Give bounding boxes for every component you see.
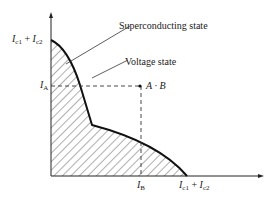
superconducting-leader	[66, 26, 130, 64]
voltage-state-label: Voltage state	[125, 57, 176, 67]
superconducting-state-label: Superconducting state	[119, 21, 208, 31]
ib-label: IB	[137, 180, 145, 192]
x-max-label: Ic1 + Ic2	[179, 180, 210, 192]
point-ab	[138, 84, 141, 87]
voltage-leader	[92, 60, 128, 78]
point-ab-label: A · B	[146, 81, 166, 91]
y-axis-arrow-icon	[49, 12, 53, 18]
diagram: Ic1 + Ic2 IA IB Ic1 + Ic2 Superconductin…	[0, 0, 274, 199]
x-axis-arrow-icon	[258, 174, 264, 178]
ia-label: IA	[40, 80, 48, 92]
y-max-label: Ic1 + Ic2	[12, 34, 43, 46]
